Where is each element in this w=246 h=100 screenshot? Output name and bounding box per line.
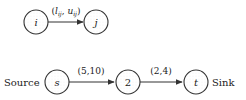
- edge-label-i-j: (lij, uij): [51, 6, 80, 18]
- node-t: t: [184, 70, 208, 94]
- flow-network-diagram: (lij, uij) i j Source Sink (5,10) (2,4) …: [0, 0, 246, 100]
- node-i: i: [24, 10, 48, 34]
- sink-label: Sink: [212, 77, 235, 88]
- node-2: 2: [116, 70, 140, 94]
- edge-label-2-t: (2,4): [150, 66, 171, 76]
- edge-label-s-2: (5,10): [77, 66, 104, 76]
- node-label-i: i: [34, 17, 37, 28]
- source-label: Source: [4, 77, 40, 88]
- example-graph: Source Sink (5,10) (2,4) s 2 t: [4, 66, 235, 94]
- node-s: s: [45, 70, 69, 94]
- node-label-2: 2: [125, 77, 131, 88]
- node-label-s: s: [54, 77, 59, 88]
- node-j: j: [84, 10, 108, 34]
- legend-graph: (lij, uij) i j: [24, 6, 108, 34]
